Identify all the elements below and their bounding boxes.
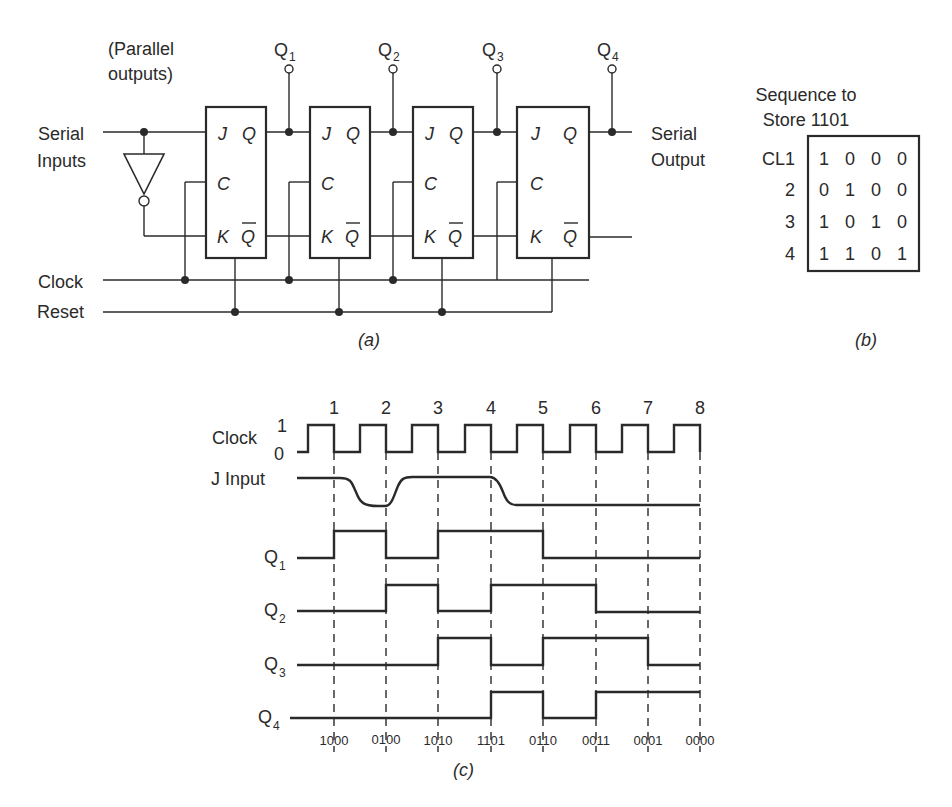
svg-text:J: J bbox=[424, 124, 435, 144]
svg-text:Q: Q bbox=[448, 227, 462, 247]
sequence-table: Sequence to Store 1101 CL1 2 3 4 1 0 0 0… bbox=[755, 85, 919, 350]
table-row: 1 0 0 0 bbox=[819, 149, 907, 169]
clock-edge-guides bbox=[334, 452, 700, 752]
svg-text:Q: Q bbox=[242, 124, 256, 144]
svg-text:1: 1 bbox=[845, 244, 855, 264]
svg-text:0: 0 bbox=[871, 244, 881, 264]
state-label: 0001 bbox=[634, 733, 663, 748]
j-input-waveform bbox=[297, 477, 700, 506]
svg-text:8: 8 bbox=[695, 398, 705, 418]
svg-text:J: J bbox=[530, 124, 541, 144]
svg-text:3: 3 bbox=[279, 666, 286, 680]
svg-text:CL1: CL1 bbox=[762, 149, 795, 169]
svg-text:Q: Q bbox=[274, 40, 288, 60]
svg-text:0: 0 bbox=[871, 149, 881, 169]
svg-text:4: 4 bbox=[486, 398, 496, 418]
svg-text:1: 1 bbox=[289, 50, 296, 64]
inverter-icon bbox=[124, 154, 164, 194]
svg-text:1: 1 bbox=[819, 212, 829, 232]
svg-text:K: K bbox=[530, 227, 543, 247]
flipflop-2: J Q C K Q bbox=[285, 107, 370, 316]
state-label: 0100 bbox=[372, 732, 401, 747]
svg-text:Q: Q bbox=[346, 124, 360, 144]
svg-text:Q: Q bbox=[264, 600, 278, 620]
table-title-2: Store 1101 bbox=[763, 110, 850, 130]
svg-text:3: 3 bbox=[497, 50, 504, 64]
svg-text:7: 7 bbox=[643, 398, 653, 418]
parallel-outputs-label-2: outputs) bbox=[108, 64, 173, 84]
caption-c: (c) bbox=[453, 760, 474, 780]
flipflop-3: J Q C K Q bbox=[389, 107, 473, 316]
svg-text:Q: Q bbox=[241, 227, 255, 247]
parallel-output-q3: Q 3 bbox=[482, 40, 504, 136]
svg-text:Q: Q bbox=[345, 227, 359, 247]
svg-text:0: 0 bbox=[845, 212, 855, 232]
svg-text:0: 0 bbox=[845, 149, 855, 169]
q3-waveform bbox=[297, 638, 700, 665]
svg-text:Q: Q bbox=[378, 40, 392, 60]
svg-text:K: K bbox=[424, 227, 437, 247]
q2-waveform bbox=[297, 585, 700, 612]
shift-register-schematic: (Parallel outputs) Serial Inputs Clock R… bbox=[37, 39, 705, 350]
state-label: 1010 bbox=[424, 733, 453, 748]
svg-text:K: K bbox=[217, 227, 230, 247]
svg-text:0: 0 bbox=[274, 444, 284, 464]
state-label: 0110 bbox=[529, 733, 557, 748]
table-row: 1 0 1 0 bbox=[819, 212, 907, 232]
svg-text:0: 0 bbox=[897, 149, 907, 169]
state-label: 1000 bbox=[320, 733, 349, 748]
svg-text:Q: Q bbox=[482, 40, 496, 60]
svg-text:1: 1 bbox=[277, 416, 287, 436]
svg-text:Q: Q bbox=[563, 227, 577, 247]
serial-output-label-1: Serial bbox=[651, 124, 697, 144]
svg-text:Q: Q bbox=[264, 547, 278, 567]
svg-text:4: 4 bbox=[612, 50, 619, 64]
clock-wave-label: Clock bbox=[212, 428, 258, 448]
svg-text:K: K bbox=[321, 227, 334, 247]
svg-text:0: 0 bbox=[897, 180, 907, 200]
svg-text:2: 2 bbox=[381, 398, 391, 418]
svg-text:1: 1 bbox=[897, 244, 907, 264]
svg-text:6: 6 bbox=[591, 398, 601, 418]
svg-text:0: 0 bbox=[819, 180, 829, 200]
svg-text:1: 1 bbox=[819, 244, 829, 264]
reset-label: Reset bbox=[37, 302, 84, 322]
svg-text:C: C bbox=[217, 174, 231, 194]
svg-text:0: 0 bbox=[871, 180, 881, 200]
clock-waveform bbox=[297, 425, 700, 452]
svg-text:0: 0 bbox=[897, 212, 907, 232]
q4-waveform bbox=[290, 692, 700, 718]
serial-inputs-label-1: Serial bbox=[38, 124, 84, 144]
parallel-output-q4: Q 4 bbox=[597, 40, 619, 136]
svg-text:J: J bbox=[217, 124, 228, 144]
svg-text:Q: Q bbox=[449, 124, 463, 144]
svg-text:2: 2 bbox=[785, 180, 795, 200]
svg-text:3: 3 bbox=[785, 212, 795, 232]
svg-text:1: 1 bbox=[279, 559, 286, 573]
clock-label: Clock bbox=[38, 272, 84, 292]
table-title-1: Sequence to bbox=[755, 85, 856, 105]
flipflop-4: J Q C K Q bbox=[497, 107, 589, 312]
parallel-outputs-label-1: (Parallel bbox=[108, 39, 174, 59]
state-label: 0011 bbox=[582, 733, 610, 748]
flipflop-1: J Q C K Q bbox=[181, 107, 266, 316]
serial-output-label-2: Output bbox=[651, 150, 705, 170]
parallel-output-q2: Q 2 bbox=[378, 40, 400, 136]
svg-text:4: 4 bbox=[273, 719, 280, 733]
table-row: 0 1 0 0 bbox=[819, 180, 907, 200]
figure-canvas: (Parallel outputs) Serial Inputs Clock R… bbox=[0, 0, 952, 807]
svg-text:4: 4 bbox=[785, 244, 795, 264]
svg-text:C: C bbox=[321, 174, 335, 194]
caption-b: (b) bbox=[855, 330, 877, 350]
svg-text:C: C bbox=[530, 174, 544, 194]
parallel-output-q1: Q 1 bbox=[274, 40, 296, 136]
svg-text:5: 5 bbox=[538, 398, 548, 418]
timing-diagram: 1 2 3 4 5 6 7 8 Clock 1 0 J Input Q 1 bbox=[211, 398, 714, 780]
serial-inputs-label-2: Inputs bbox=[37, 151, 86, 171]
j-input-label: J Input bbox=[211, 469, 265, 489]
state-label: 0000 bbox=[686, 733, 715, 748]
svg-text:C: C bbox=[424, 174, 438, 194]
state-label: 1101 bbox=[477, 733, 505, 748]
svg-text:Q: Q bbox=[563, 124, 577, 144]
svg-text:3: 3 bbox=[433, 398, 443, 418]
